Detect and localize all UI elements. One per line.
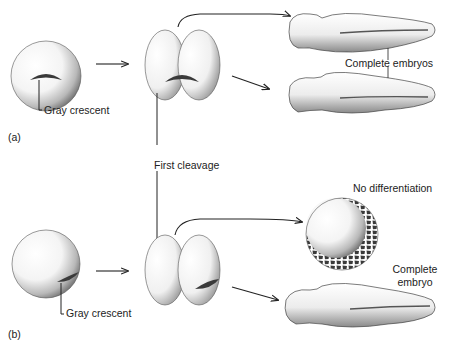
panel-a [11, 13, 435, 145]
complete-embryos-label: Complete embryos [345, 58, 433, 69]
panel-tag-a: (a) [8, 132, 21, 143]
embryo-a-top [289, 13, 435, 60]
embryo-a-bottom [289, 66, 435, 113]
gray-crescent-label-b: Gray crescent [66, 308, 131, 319]
arrow-b-top [175, 219, 302, 235]
diagram-canvas [0, 0, 454, 349]
arrow-b-bottom [232, 287, 278, 300]
no-differentiation-label: No differentiation [353, 183, 432, 194]
panel-tag-b: (b) [8, 329, 21, 340]
egg-b [12, 230, 80, 314]
two-cell-b [145, 235, 220, 305]
first-cleavage-label: First cleavage [153, 160, 220, 171]
gray-crescent-label-a: Gray crescent [44, 105, 109, 116]
egg-a [11, 41, 81, 111]
complete-embryo-label-line2: embryo [390, 277, 440, 288]
complete-embryo-label-line1: Complete [390, 264, 440, 275]
arrow-a-bottom [232, 76, 269, 89]
arrow-a-top [178, 14, 290, 27]
embryo-b [285, 283, 435, 327]
undifferentiated-ball [306, 198, 378, 270]
two-cell-a [145, 30, 220, 145]
